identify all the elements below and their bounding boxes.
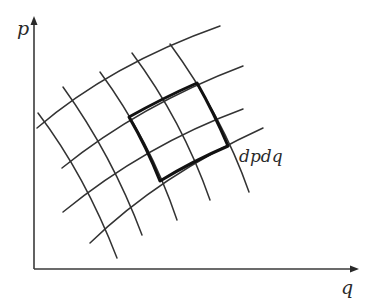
p-axis-arrow-icon [31,16,38,25]
q-curve-1 [38,113,117,258]
p-grid-curves [37,26,263,243]
q-curve-2 [63,87,142,235]
cell-label: dpdq [239,146,283,166]
phase-space-diagram: p q dpdq [0,0,372,302]
q-curve-3 [100,72,177,220]
q-axis-label: q [341,276,353,298]
p-curve-4 [90,128,263,243]
p-axis-label: p [17,17,29,39]
q-axis-arrow-icon [350,266,359,273]
diagram-canvas: p q dpdq [0,0,372,302]
highlighted-cell-dpdq [129,83,228,181]
axes [31,16,360,273]
